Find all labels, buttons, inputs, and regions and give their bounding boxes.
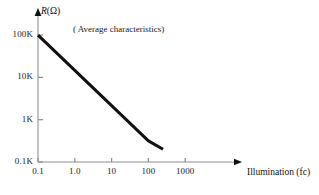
x-axis	[38, 159, 242, 165]
y-axis-unit: (Ω)	[47, 6, 60, 16]
x-axis-title: Illumination (fc)	[247, 167, 310, 177]
y-tick-label: 100K	[0, 29, 33, 39]
chart-annotation: ( Average characteristics)	[73, 24, 164, 34]
photoconductive-cell-chart: R(Ω) Illumination (fc) ( Average charact…	[0, 0, 319, 195]
x-tick-label: 1000	[165, 166, 205, 176]
x-tick-label: 10	[92, 166, 132, 176]
y-axis-title: R(Ω)	[41, 6, 60, 16]
y-axis	[35, 8, 42, 162]
data-line	[38, 35, 163, 149]
x-axis-arrowhead	[234, 159, 242, 165]
x-tick-label: 0.1	[18, 166, 58, 176]
y-tick-label: 10K	[0, 71, 33, 81]
data-series-group	[38, 35, 163, 149]
y-tick-label: 0.1K	[0, 156, 33, 166]
y-tick-label: 1K	[0, 114, 33, 124]
x-tick-label: 100	[128, 166, 168, 176]
x-tick-label: 1.0	[55, 166, 95, 176]
